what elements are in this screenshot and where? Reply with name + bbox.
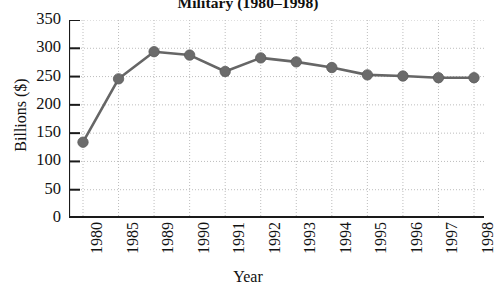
y-tick-label: 300	[7, 39, 61, 56]
x-tick-label: 1995	[373, 222, 389, 254]
y-tick-label: 200	[7, 96, 61, 113]
x-tick-label: 1997	[444, 222, 460, 254]
y-tick-label: 150	[7, 124, 61, 141]
plot-area: 050100150200250300350	[69, 20, 484, 218]
x-tick-label: 1989	[160, 222, 176, 254]
x-tick-labels: 1980198519891990199119921993199419951996…	[69, 222, 484, 270]
x-tick-label: 1993	[302, 222, 318, 254]
x-tick-label: 1985	[125, 222, 141, 254]
y-tick-label: 0	[7, 209, 61, 226]
x-tick-label: 1980	[89, 222, 105, 254]
x-tick-label: 1992	[267, 222, 283, 254]
x-axis-label: Year	[0, 268, 496, 286]
x-tick-label: 1990	[196, 222, 212, 254]
chart-title: Military (1980–1998)	[0, 0, 496, 12]
y-tick-label: 100	[7, 152, 61, 169]
y-tick-label: 250	[7, 68, 61, 85]
y-tick-labels: 050100150200250300350	[69, 20, 484, 218]
x-tick-label: 1994	[338, 222, 354, 254]
y-tick-label: 350	[7, 11, 61, 28]
chart-figure: Military (1980–1998) Billions ($) 050100…	[0, 0, 496, 294]
y-tick-label: 50	[7, 181, 61, 198]
x-tick-label: 1991	[231, 222, 247, 254]
x-tick-label: 1998	[480, 222, 496, 254]
x-tick-label: 1996	[409, 222, 425, 254]
